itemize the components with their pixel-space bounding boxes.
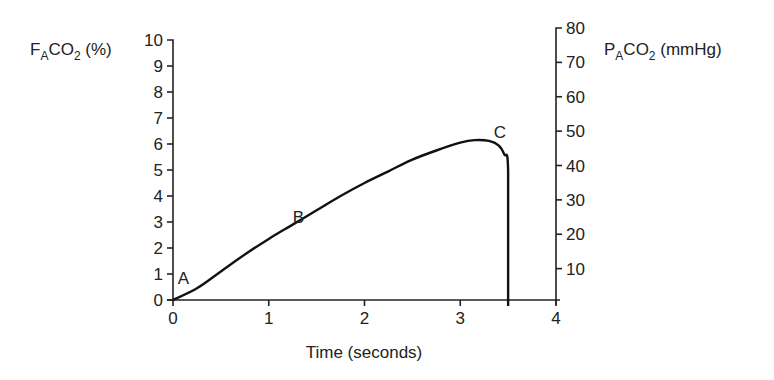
y-right-tick-label: 30 xyxy=(566,191,585,210)
point-label-a: A xyxy=(178,269,190,288)
annotations: ABC xyxy=(178,123,506,289)
y-left-tick-label: 4 xyxy=(154,187,163,206)
y-right-tick-label: 80 xyxy=(566,19,585,38)
x-tick-label: 1 xyxy=(264,309,273,328)
y-right-tick-label: 40 xyxy=(566,157,585,176)
x-tick-label: 3 xyxy=(456,309,465,328)
y-left-tick-label: 8 xyxy=(154,83,163,102)
y-right-tick-label: 60 xyxy=(566,88,585,107)
y-left-tick-label: 7 xyxy=(154,109,163,128)
x-axis-label: Time (seconds) xyxy=(306,343,423,362)
co2-curve xyxy=(173,140,508,306)
y-right-label: PACO2 (mmHg) xyxy=(604,40,722,63)
y-right-tick-label: 70 xyxy=(566,53,585,72)
y-left-tick-label: 5 xyxy=(154,161,163,180)
y-left-tick-label: 9 xyxy=(154,57,163,76)
y-left-tick-label: 1 xyxy=(154,265,163,284)
x-tick-label: 4 xyxy=(551,309,560,328)
y-left-tick-label: 0 xyxy=(154,291,163,310)
point-label-c: C xyxy=(494,123,506,142)
y-right-axis-line xyxy=(556,28,562,305)
ticks: 012345678910102030405060708001234 xyxy=(144,19,585,328)
y-right-tick-label: 10 xyxy=(566,260,585,279)
y-left-tick-label: 3 xyxy=(154,213,163,232)
axes xyxy=(167,28,562,305)
point-label-b: B xyxy=(293,208,304,227)
y-left-tick-label: 2 xyxy=(154,239,163,258)
x-tick-label: 0 xyxy=(168,309,177,328)
capnogram-chart: 012345678910102030405060708001234 ABC FA… xyxy=(0,0,774,380)
x-tick-label: 2 xyxy=(360,309,369,328)
y-right-tick-label: 20 xyxy=(566,225,585,244)
y-left-label: FACO2 (%) xyxy=(30,40,112,63)
y-left-tick-label: 6 xyxy=(154,135,163,154)
y-left-tick-label: 10 xyxy=(144,31,163,50)
y-right-tick-label: 50 xyxy=(566,122,585,141)
